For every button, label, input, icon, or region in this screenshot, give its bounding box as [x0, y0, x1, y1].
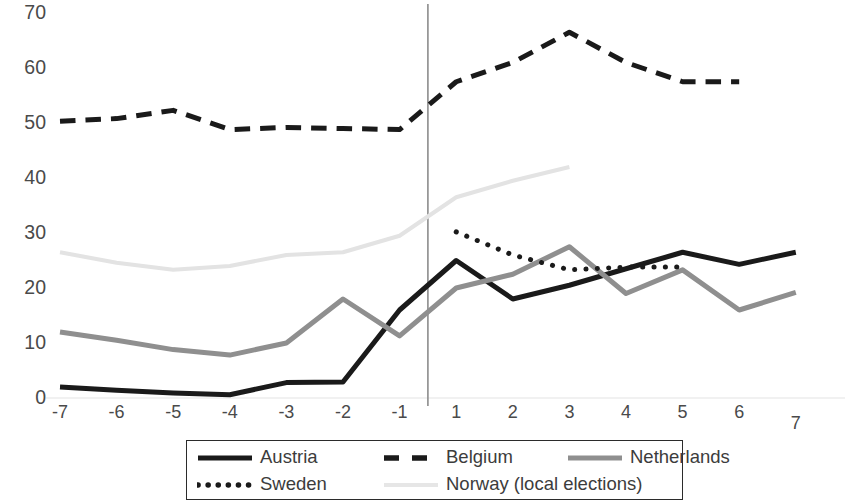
chart-legend: AustriaBelgiumNetherlandsSwedenNorway (l… — [186, 440, 683, 500]
legend-item-norway[interactable]: Norway (local elections) — [383, 470, 642, 499]
x-axis-tick-neg4: -4 — [210, 403, 250, 421]
y-axis-tick-10: 10 — [0, 333, 46, 353]
y-axis-tick-20: 20 — [0, 278, 46, 298]
y-axis-tick-30: 30 — [0, 223, 46, 243]
legend-row: SwedenNorway (local elections) — [187, 470, 682, 499]
legend-item-netherlands[interactable]: Netherlands — [567, 443, 730, 472]
x-axis-tick-neg1: -1 — [380, 403, 420, 421]
x-axis-tick-neg3: -3 — [266, 403, 306, 421]
chart-figure: 010203040506070 -7-6-5-4-3-2-11234567 Au… — [0, 0, 850, 504]
x-axis-tick-4: 4 — [606, 403, 646, 421]
x-axis-tick-5: 5 — [663, 403, 703, 421]
y-axis-tick-40: 40 — [0, 168, 46, 188]
chart-canvas — [0, 0, 850, 430]
x-axis-tick-neg5: -5 — [153, 403, 193, 421]
legend-item-belgium[interactable]: Belgium — [383, 443, 513, 472]
x-axis-tick-neg7: -7 — [40, 403, 80, 421]
series-line-belgium — [60, 32, 739, 129]
series-line-norway — [60, 167, 569, 270]
legend-label: Austria — [260, 448, 318, 467]
legend-label: Netherlands — [630, 448, 730, 467]
legend-label: Belgium — [446, 448, 513, 467]
plot-area: 010203040506070 -7-6-5-4-3-2-11234567 — [0, 0, 850, 430]
x-axis-tick-neg6: -6 — [97, 403, 137, 421]
x-axis-tick-1: 1 — [436, 403, 476, 421]
x-axis-tick-7: 7 — [776, 414, 816, 432]
line-solid-gray-swatch — [567, 449, 623, 467]
x-axis-tick-2: 2 — [493, 403, 533, 421]
line-solid-black-swatch — [197, 449, 253, 467]
legend-item-sweden[interactable]: Sweden — [197, 470, 327, 499]
y-axis-tick-50: 50 — [0, 113, 46, 133]
x-axis-tick-6: 6 — [719, 403, 759, 421]
legend-label: Sweden — [260, 475, 327, 494]
y-axis-tick-60: 60 — [0, 58, 46, 78]
line-dashed-black-swatch — [383, 449, 439, 467]
line-dotted-black-swatch — [197, 476, 253, 494]
y-axis-tick-70: 70 — [0, 3, 46, 23]
legend-row: AustriaBelgiumNetherlands — [187, 443, 682, 472]
legend-item-austria[interactable]: Austria — [197, 443, 318, 472]
line-solid-lightgray-swatch — [383, 476, 439, 494]
x-axis-tick-neg2: -2 — [323, 403, 363, 421]
legend-label: Norway (local elections) — [446, 475, 642, 494]
x-axis-tick-3: 3 — [549, 403, 589, 421]
